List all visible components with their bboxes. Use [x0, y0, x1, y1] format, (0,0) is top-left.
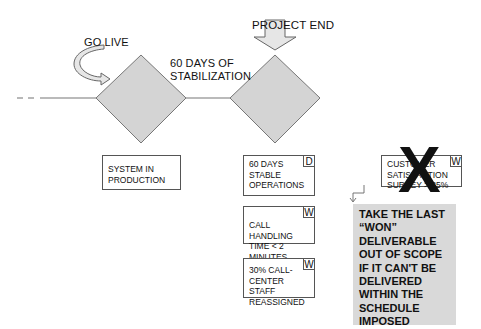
system-in-production-box: SYSTEM IN PRODUCTION	[102, 155, 181, 190]
note-text: TAKE THE LAST “WON” DELIVERABLE OUT OF S…	[359, 208, 445, 327]
deliverable-flag: D	[303, 155, 315, 167]
staff-reassigned-box: 30% CALL-CENTER STAFF REASSIGNED W	[243, 258, 315, 298]
box-text: 60 DAYS STABLE OPERATIONS	[249, 159, 297, 191]
stable-operations-box: 60 DAYS STABLE OPERATIONS D	[243, 155, 315, 196]
phase-label-line-2: STABILIZATION	[170, 70, 251, 83]
go-live-label: GO LIVE	[84, 36, 129, 49]
go-live-curved-arrow-icon	[74, 45, 110, 85]
want-flag: W	[450, 155, 462, 167]
scope-reduction-note: TAKE THE LAST “WON” DELIVERABLE OUT OF S…	[353, 204, 456, 325]
box-text: SYSTEM IN PRODUCTION	[108, 164, 168, 185]
want-flag: W	[303, 206, 315, 218]
box-text: CALL HANDLING TIME < 2 MINUTES	[249, 220, 309, 262]
project-end-label: PROJECT END	[252, 19, 334, 32]
survey-to-note-connector	[350, 185, 364, 202]
phase-label-line-1: 60 DAYS OF	[170, 57, 251, 70]
stabilization-phase-label: 60 DAYS OF STABILIZATION	[170, 57, 251, 83]
want-flag: W	[303, 258, 315, 270]
crossed-out-x-icon: X	[398, 140, 441, 200]
call-handling-box: CALL HANDLING TIME < 2 MINUTES W	[243, 206, 315, 244]
box-text: 30% CALL-CENTER STAFF REASSIGNED	[249, 265, 305, 307]
